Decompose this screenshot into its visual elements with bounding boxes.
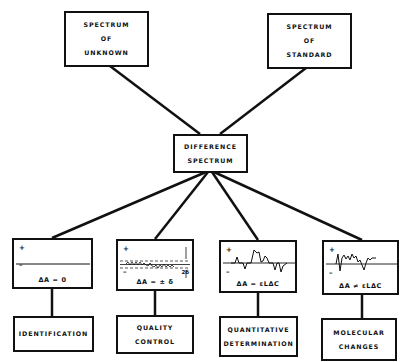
connector-unknown-to-difference <box>110 66 200 134</box>
box-label: IDENTIFICATION <box>19 327 88 341</box>
box-label: MOLECULAR <box>333 326 385 340</box>
equation-label: ΔA = 0 <box>14 276 91 284</box>
box-label: CONTROL <box>135 335 175 349</box>
plus-sign: + <box>226 246 232 254</box>
outcome-quality-control-box: QUALITY CONTROL <box>116 315 194 354</box>
box-label: OF <box>304 34 315 48</box>
box-label: CHANGES <box>339 340 379 354</box>
outcome-identification-box: IDENTIFICATION <box>13 316 94 352</box>
box-label: QUALITY <box>137 321 174 335</box>
difference-spectrum-box: DIFFERENCE SPECTRUM <box>173 134 248 173</box>
box-label: UNKNOWN <box>84 46 128 60</box>
minus-sign: – <box>226 268 230 276</box>
box-label: STANDARD <box>287 48 333 62</box>
box-label: QUANTITATIVE <box>228 323 290 337</box>
box-label: SPECTRUM <box>84 18 130 32</box>
box-label: SPECTRUM <box>287 20 333 34</box>
equation-label: ΔA = ± δ <box>118 278 192 286</box>
plus-sign: + <box>329 246 335 254</box>
equation-label: ΔA = εLΔC <box>221 280 295 288</box>
equation-label: ΔA ≠ εLΔC <box>324 282 397 290</box>
minus-sign: – <box>19 261 23 269</box>
spectrum-panel-proportional: + – ΔA = εLΔC <box>219 240 297 293</box>
plus-sign: + <box>123 245 129 253</box>
box-label: SPECTRUM <box>188 154 234 168</box>
spectrum-of-standard-box: SPECTRUM OF STANDARD <box>267 13 352 69</box>
outcome-molecular-changes-box: MOLECULAR CHANGES <box>321 318 397 361</box>
spectrum-panel-zero: + – ΔA = 0 <box>12 238 93 289</box>
minus-sign: – <box>123 268 127 276</box>
minus-sign: – <box>329 269 333 277</box>
box-label: DIFFERENCE <box>184 140 237 154</box>
spectrum-of-unknown-box: SPECTRUM OF UNKNOWN <box>64 11 149 67</box>
plus-sign: + <box>19 244 25 252</box>
outcome-quantitative-determination-box: QUANTITATIVE DETERMINATION <box>219 316 298 357</box>
connector-standard-to-difference <box>220 68 306 134</box>
two-delta-annotation: 2δ <box>181 269 189 275</box>
spectrum-panel-noise: + – 2δ ΔA = ± δ <box>116 239 194 291</box>
spectrum-panel-nonproportional: + – ΔA ≠ εLΔC <box>322 240 399 295</box>
box-label: OF <box>101 32 112 46</box>
box-label: DETERMINATION <box>223 337 293 351</box>
